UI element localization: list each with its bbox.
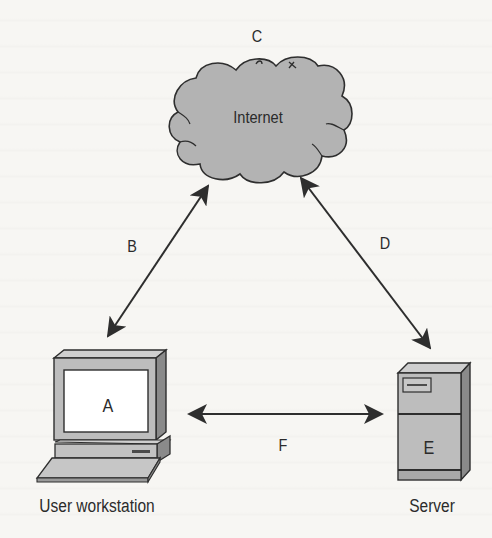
workstation-caption: User workstation xyxy=(39,497,154,515)
connection-letter-f: F xyxy=(279,437,288,454)
arrow-b xyxy=(108,186,208,336)
desktop-computer-icon xyxy=(37,350,170,482)
server-tower-icon xyxy=(398,363,470,480)
node-letter-a: A xyxy=(103,396,114,415)
network-diagram xyxy=(0,0,492,538)
connection-letter-d: D xyxy=(380,235,390,252)
server-caption: Server xyxy=(409,497,455,515)
diagram-canvas: C Internet B D F A E User workstation Se… xyxy=(0,0,492,538)
node-letter-c: C xyxy=(252,28,262,45)
connection-letter-b: B xyxy=(127,238,137,255)
arrow-d xyxy=(301,178,430,348)
node-letter-e: E xyxy=(424,438,435,457)
internet-label: Internet xyxy=(233,109,283,126)
